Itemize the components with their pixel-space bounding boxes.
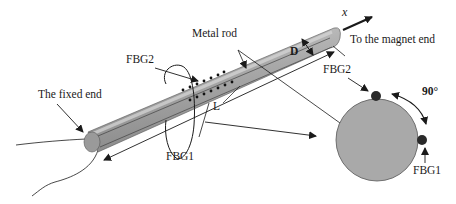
angle-label: 90° <box>422 85 439 97</box>
fbg2-label: FBG2 <box>126 53 154 65</box>
magnet-end-label: To the magnet end <box>350 33 435 46</box>
rod-cross-section <box>336 99 418 181</box>
fbg1-sensor-dot <box>417 135 427 145</box>
x-direction-arrow <box>343 17 372 30</box>
fixed-end-label: The fixed end <box>38 88 102 100</box>
optical-fiber-lead-lower <box>32 150 98 196</box>
fbg2-cross-section-label: FBG2 <box>323 63 351 75</box>
fbg2-sensor-dot <box>371 91 381 101</box>
fbg1-pointer <box>199 103 209 137</box>
rod-end-cap <box>84 132 100 152</box>
cross-section-pointer <box>205 122 316 136</box>
fbg1-label: FBG1 <box>166 150 194 162</box>
fbg2-cross-section-pointer <box>348 78 368 91</box>
length-label: L <box>213 100 220 112</box>
metal-rod <box>84 28 340 152</box>
fixed-end-pointer <box>57 104 83 132</box>
diameter-label: D <box>290 45 298 57</box>
x-axis-label: x <box>341 5 348 19</box>
fbg1-cross-section-label: FBG1 <box>413 164 441 176</box>
fbg-metal-rod-diagram: L D x To the magnet end Metal rod FBG2 T… <box>0 0 456 204</box>
optical-fiber-lead-upper <box>16 139 86 145</box>
fbg2-pointer <box>155 68 198 81</box>
length-extension-line <box>333 46 345 56</box>
metal-rod-label: Metal rod <box>192 27 237 39</box>
rod-body <box>88 28 340 152</box>
